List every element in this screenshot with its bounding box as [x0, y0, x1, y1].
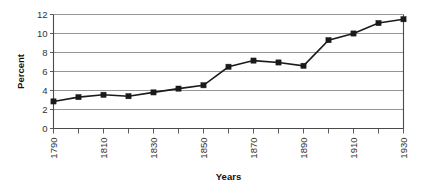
x-tick-label: 1790	[48, 138, 59, 159]
x-tick-label: 1910	[348, 138, 359, 159]
y-tick-label: 12	[37, 9, 48, 20]
y-tick-label: 2	[42, 104, 47, 115]
y-tick-label: 8	[42, 47, 47, 58]
x-tick-label: 1870	[248, 138, 259, 159]
data-point	[401, 17, 406, 22]
data-point	[101, 92, 106, 97]
data-point	[151, 90, 156, 95]
data-point	[126, 94, 131, 99]
data-point	[251, 58, 256, 63]
x-tick-label: 1830	[148, 138, 159, 159]
data-point	[301, 63, 306, 68]
data-point	[351, 31, 356, 36]
data-point	[376, 20, 381, 25]
y-tick-label: 10	[37, 28, 48, 39]
y-tick-label: 4	[42, 85, 47, 96]
x-tick-label: 1850	[198, 138, 209, 159]
x-tick-label: 1890	[298, 138, 309, 159]
y-tick-label: 6	[42, 66, 47, 77]
y-axis-title: Percent	[15, 53, 26, 89]
line-chart: 024681012 179018101830185018701890191019…	[0, 0, 423, 189]
x-axis-title: Years	[216, 171, 241, 182]
data-point	[201, 83, 206, 88]
y-tick-label: 0	[42, 123, 47, 134]
data-point	[276, 60, 281, 65]
chart-canvas: 024681012 179018101830185018701890191019…	[0, 0, 423, 189]
data-point	[51, 99, 56, 104]
data-point	[176, 86, 181, 91]
data-point	[226, 64, 231, 69]
data-point	[326, 38, 331, 43]
chart-background	[0, 0, 423, 189]
data-point	[76, 95, 81, 100]
x-tick-label: 1810	[98, 138, 109, 159]
x-tick-label: 1930	[398, 138, 409, 159]
